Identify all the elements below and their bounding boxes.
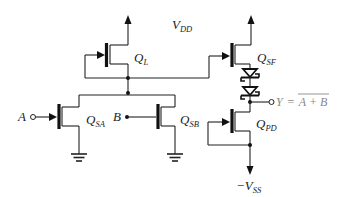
label-qsf: QSF — [257, 50, 277, 67]
diode-d2 — [241, 87, 259, 102]
transistor-qsa — [31, 95, 88, 161]
input-a-terminal[interactable] — [31, 115, 36, 120]
vss-arrow-icon — [247, 166, 254, 175]
svg-text:Y=A + B: Y=A + B — [276, 95, 328, 109]
label-input-b: B — [113, 109, 121, 124]
gate-arrow-icon — [49, 113, 57, 121]
label-ql: QL — [134, 50, 148, 67]
transistor-qpd — [208, 102, 254, 175]
gate-arrow-icon — [222, 118, 230, 126]
transistor-ql — [85, 15, 132, 93]
diode-d1 — [241, 69, 259, 87]
ground-icon — [71, 154, 87, 161]
ground-icon — [167, 154, 183, 161]
output-expression: A + B — [298, 95, 328, 109]
label-qsa: QSA — [86, 112, 106, 129]
label-vdd: VDD — [172, 17, 193, 34]
output-y-terminal[interactable] — [269, 100, 274, 105]
label-qsb: QSB — [180, 112, 199, 129]
gate-arrow-icon — [97, 51, 105, 59]
output-label: Y=A + B — [276, 94, 329, 109]
vdd-arrow-icon — [125, 15, 132, 24]
transistor-qsb — [125, 95, 183, 161]
circuit-schematic: QL A QSA — [0, 0, 345, 197]
label-vss: −VSS — [236, 178, 262, 195]
label-input-a: A — [17, 109, 26, 124]
gate-arrow-icon — [222, 52, 230, 60]
label-qpd: QPD — [256, 116, 278, 133]
transistor-qsf — [222, 15, 255, 69]
vdd-arrow-icon — [248, 15, 255, 24]
junction-dot — [248, 143, 252, 147]
